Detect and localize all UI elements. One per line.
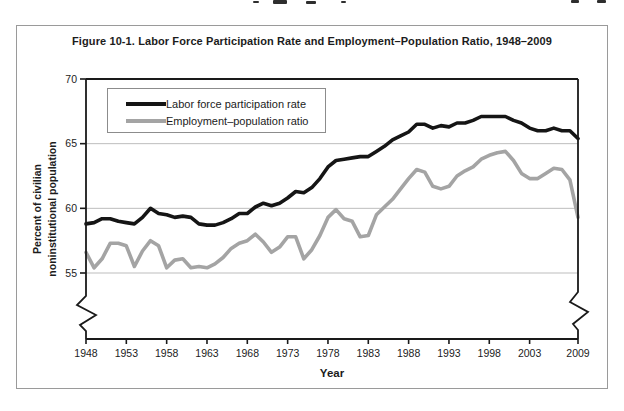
screenshot-canvas: Figure 10-1. Labor Force Participation R…	[0, 0, 624, 411]
x-axis-title: Year	[86, 367, 578, 379]
cropped-text-fragment	[597, 0, 606, 3]
svg-text:1973: 1973	[276, 347, 300, 359]
cropped-text-fragment	[341, 1, 346, 3]
svg-text:1988: 1988	[397, 347, 421, 359]
svg-text:1958: 1958	[155, 347, 179, 359]
cropped-text-fragment	[273, 0, 287, 4]
svg-text:1953: 1953	[115, 347, 139, 359]
cropped-text-fragment	[571, 0, 579, 3]
cropped-text-fragment	[253, 1, 259, 3]
svg-text:1983: 1983	[357, 347, 381, 359]
svg-text:1968: 1968	[236, 347, 260, 359]
svg-text:60: 60	[65, 202, 77, 214]
svg-text:1993: 1993	[437, 347, 461, 359]
svg-text:1998: 1998	[478, 347, 502, 359]
svg-text:1948: 1948	[74, 347, 98, 359]
svg-text:65: 65	[65, 137, 77, 149]
figure-10-1-panel: Figure 10-1. Labor Force Participation R…	[16, 25, 608, 389]
svg-text:2009: 2009	[566, 347, 590, 359]
legend-entry-lfpr: Labor force participation rate	[126, 95, 325, 112]
legend-entry-epr: Employment–population ratio	[126, 112, 325, 129]
legend-label-lfpr: Labor force participation rate	[166, 98, 306, 110]
y-axis-title: Percent of civilian noninstitutional pop…	[30, 108, 62, 310]
right-axis-line-with-break	[570, 79, 588, 339]
epr-line-swatch-icon	[126, 119, 166, 123]
legend-label-epr: Employment–population ratio	[166, 115, 308, 127]
y-axis-title-line1: Percent of civilian	[30, 108, 45, 310]
series-lines	[86, 117, 578, 268]
series-line-1	[86, 151, 578, 267]
line-chart: 7065605519481953195819631968197319781983…	[17, 26, 607, 388]
y-axis-title-line2: noninstitutional population	[45, 108, 60, 310]
y-tick-labels: 70656055	[65, 73, 77, 279]
svg-text:55: 55	[65, 267, 77, 279]
svg-text:1963: 1963	[195, 347, 219, 359]
chart-legend: Labor force participation rate Employmen…	[107, 88, 326, 133]
cropped-text-fragment	[306, 1, 316, 4]
y-axis-line-with-break	[77, 79, 96, 339]
lfpr-line-swatch-icon	[126, 102, 166, 106]
svg-text:2003: 2003	[518, 347, 542, 359]
x-tick-labels: 1948195319581963196819731978198319881993…	[74, 347, 590, 359]
svg-text:1978: 1978	[316, 347, 340, 359]
svg-text:70: 70	[65, 73, 77, 85]
